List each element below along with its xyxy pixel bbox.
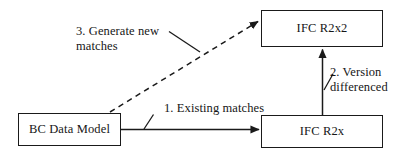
edge-label-generate-new-matches: 3. Generate new matches [76, 24, 181, 54]
node-ifc-r2x2-label: IFC R2x2 [297, 21, 348, 36]
node-ifc-r2x2[interactable]: IFC R2x2 [261, 10, 383, 47]
edge-label-version-differenced: 2. Version differenced [330, 65, 402, 95]
edge-existing-matches-leader [144, 115, 154, 130]
node-ifc-r2x-label: IFC R2x [300, 124, 344, 139]
edge-label-existing-matches: 1. Existing matches [164, 101, 289, 116]
node-bc-data-model-label: BC Data Model [29, 122, 110, 137]
node-bc-data-model[interactable]: BC Data Model [18, 113, 121, 146]
node-ifc-r2x[interactable]: IFC R2x [261, 115, 383, 148]
diagram-canvas: BC Data Model IFC R2x2 IFC R2x 3. Genera… [0, 0, 404, 157]
